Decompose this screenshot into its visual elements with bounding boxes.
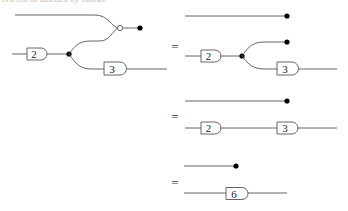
lhs-gate-2: 2 bbox=[27, 48, 47, 60]
lhs-gate-3: 3 bbox=[104, 62, 127, 75]
step3-diagram: 6 bbox=[184, 163, 287, 199]
step1-gate-2: 2 bbox=[201, 50, 221, 62]
step1-gate-3-label: 3 bbox=[282, 63, 288, 75]
lhs-lower-branch bbox=[69, 54, 104, 69]
lhs-discard-node bbox=[137, 25, 142, 30]
step3-top-discard bbox=[233, 163, 238, 168]
step2-gate-3-label: 3 bbox=[282, 122, 288, 134]
lhs-gate-2-label: 2 bbox=[31, 48, 37, 60]
step2-diagram: 2 3 bbox=[185, 98, 337, 134]
equals-sign-3: = bbox=[171, 175, 178, 190]
equals-sign-2: = bbox=[171, 109, 178, 124]
step1-top-discard bbox=[284, 13, 289, 18]
lhs-merge-node bbox=[117, 25, 122, 30]
step1-gate-2-label: 2 bbox=[206, 50, 212, 62]
step2-gate-2: 2 bbox=[201, 122, 221, 134]
step1-lower-branch bbox=[242, 56, 277, 69]
step2-gate-2-label: 2 bbox=[206, 122, 212, 134]
lhs-gate-3-label: 3 bbox=[109, 63, 115, 75]
step1-upper-branch bbox=[242, 42, 287, 56]
step2-top-discard bbox=[284, 98, 289, 103]
lhs-upper-branch bbox=[69, 28, 118, 54]
step3-gate-6: 6 bbox=[226, 188, 248, 200]
step1-gate-3: 3 bbox=[277, 62, 299, 75]
step3-gate-6-label: 6 bbox=[231, 188, 237, 200]
step1-diagram: 2 3 bbox=[185, 13, 337, 75]
lhs-diagram: 2 3 bbox=[12, 15, 167, 75]
step1-branch-discard bbox=[284, 39, 289, 44]
step2-gate-3: 3 bbox=[277, 122, 298, 134]
equals-sign-1: = bbox=[171, 39, 178, 54]
lhs-top-wire bbox=[15, 15, 118, 28]
